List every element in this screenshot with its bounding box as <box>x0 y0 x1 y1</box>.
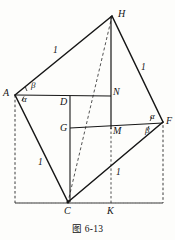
angle-label-f-beta: β <box>145 126 149 135</box>
length-label-ac: 1 <box>38 158 43 168</box>
segment-ac <box>15 95 68 202</box>
vertex-label-g: G <box>60 123 67 133</box>
angle-label-a-beta: β <box>31 81 35 90</box>
vertex-label-c: C <box>64 206 71 216</box>
angle-label-a-alpha: α <box>22 95 27 104</box>
vertex-label-f: F <box>166 116 172 126</box>
vertex-label-k: K <box>107 206 114 216</box>
vertex-label-d: D <box>60 97 67 107</box>
geometry-drawing <box>0 0 175 240</box>
segment-ah <box>15 16 112 95</box>
vertex-label-a: A <box>3 88 9 98</box>
length-label-cf: 1 <box>116 168 121 178</box>
angle-arc-a-beta <box>26 87 28 91</box>
vertex-dot-c <box>66 200 69 203</box>
vertex-label-m: M <box>113 126 121 136</box>
figure-container: H A D N G M F C K β α α β 1 1 1 1 图 6-13 <box>0 0 175 240</box>
angle-label-f-alpha: α <box>150 112 155 121</box>
figure-caption: 图 6-13 <box>0 221 175 235</box>
length-label-ah: 1 <box>53 46 58 56</box>
vertex-label-h: H <box>118 9 125 19</box>
dashed-diagonal-hc <box>68 16 112 202</box>
segment-hf <box>112 16 163 122</box>
length-label-hf: 1 <box>141 63 146 73</box>
vertex-label-n: N <box>113 87 120 97</box>
